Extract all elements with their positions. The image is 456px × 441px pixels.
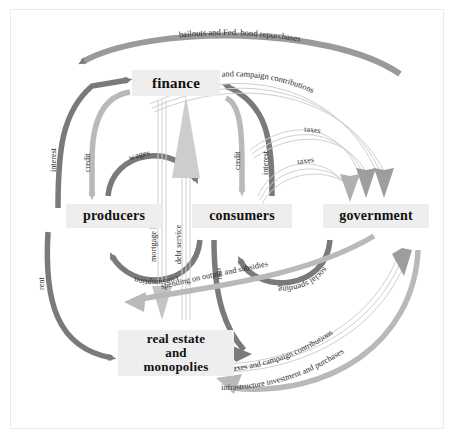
label-interest-right: interest (261, 150, 270, 175)
label-taxes-lower: taxes (296, 155, 314, 166)
node-real-estate-and-monopolies[interactable]: real estate and monopolies (118, 330, 234, 376)
label-debt-service: debt service (174, 224, 183, 264)
flow-credit-right (226, 98, 242, 192)
label-rent-center: rent (215, 268, 225, 281)
node-consumers[interactable]: consumers (192, 204, 292, 228)
node-government[interactable]: government (323, 204, 429, 228)
node-producers[interactable]: producers (66, 204, 162, 228)
flow-bailouts (82, 36, 400, 74)
flow-rent-left (47, 232, 112, 358)
node-finance[interactable]: finance (132, 70, 220, 96)
label-credit-right: credit (233, 151, 242, 170)
diagram-canvas: bailouts and Fed. bond repurchases bond … (0, 0, 456, 441)
label-rent-left: rent (37, 277, 46, 290)
label-interest-left: interest (49, 147, 58, 172)
label-taxes-upper: taxes (304, 125, 321, 136)
label-credit-left: credit (83, 153, 92, 172)
